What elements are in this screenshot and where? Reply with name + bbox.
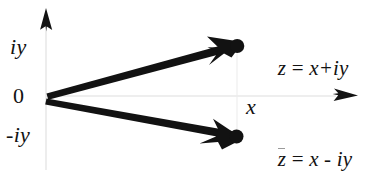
complex-plane-figure: iy 0 -iy x z = x+iy z = x - iy <box>0 0 372 174</box>
up-arrow-icon <box>40 8 52 32</box>
annotation-z: z = x+iy <box>256 37 349 100</box>
point-marker-z-conjugate <box>230 130 244 144</box>
annotation-z-symbol: z <box>278 56 286 80</box>
annotation-z-expression: x+iy <box>309 56 348 80</box>
axis-label-positive-imaginary: iy <box>10 36 26 58</box>
annotation-z-conjugate-expression: x - iy <box>309 147 352 171</box>
annotation-z-equals: = <box>286 56 309 80</box>
axis-label-real: x <box>246 96 256 118</box>
axis-label-origin: 0 <box>13 85 24 107</box>
annotation-z-conjugate-equals: = <box>286 147 309 171</box>
annotation-z-conjugate: z = x - iy <box>256 128 352 174</box>
axis-label-negative-imaginary: -iy <box>6 124 30 146</box>
annotation-z-conjugate-symbol: z <box>278 149 286 170</box>
vector-z <box>47 37 245 100</box>
point-marker-z <box>230 39 244 53</box>
vector-z-conjugate <box>45 98 243 149</box>
